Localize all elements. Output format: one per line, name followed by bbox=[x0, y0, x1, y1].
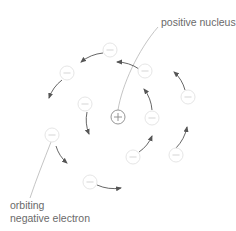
orbit-arrow bbox=[86, 112, 89, 134]
electron-label-line2: negative electron bbox=[10, 212, 90, 225]
electron bbox=[138, 64, 152, 78]
electron bbox=[103, 43, 117, 57]
nucleus bbox=[111, 110, 125, 124]
orbit-arrow bbox=[144, 89, 152, 110]
electron bbox=[60, 66, 74, 80]
orbit-arrow bbox=[176, 127, 187, 148]
electron-leader-line bbox=[30, 142, 51, 198]
electron bbox=[169, 148, 183, 162]
atom-diagram bbox=[0, 0, 236, 231]
orbit-arrow bbox=[81, 53, 103, 62]
orbit-arrow bbox=[117, 62, 139, 69]
orbit-arrow bbox=[139, 136, 152, 152]
electron-label-line1: orbiting bbox=[10, 199, 90, 212]
orbit-arrow bbox=[97, 185, 121, 189]
electron bbox=[145, 111, 159, 125]
orbit-arrow bbox=[174, 72, 185, 90]
electron bbox=[83, 175, 97, 189]
electron bbox=[78, 97, 92, 111]
electron bbox=[181, 90, 195, 104]
electron bbox=[45, 128, 59, 142]
nucleus-label: positive nucleus bbox=[161, 16, 236, 29]
electron-label: orbiting negative electron bbox=[10, 199, 90, 225]
orbit-arrow bbox=[49, 80, 62, 98]
electron bbox=[126, 150, 140, 164]
orbit-arrow bbox=[56, 146, 67, 163]
